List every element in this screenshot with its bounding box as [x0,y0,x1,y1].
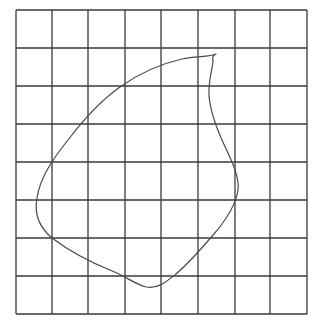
grid-canvas [0,0,322,327]
grid-diagram [0,0,322,327]
closed-curve-outline [36,54,238,287]
grid-lines [16,10,307,314]
